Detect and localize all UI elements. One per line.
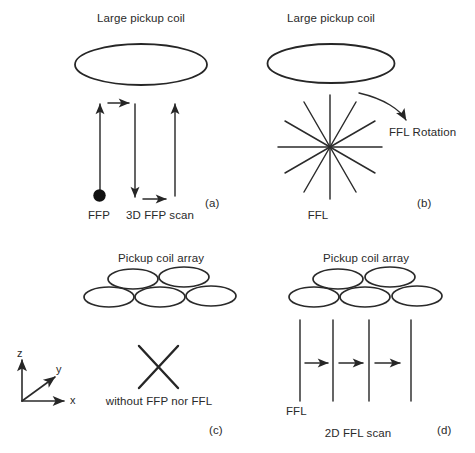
figure-container: Large pickup coil FFP 3D FFP scan (a) La… xyxy=(0,0,475,453)
pickup-coil-array-c-bottom-3 xyxy=(186,286,236,306)
panel-d-label: (d) xyxy=(437,424,451,437)
panel-a-coil-title: Large pickup coil xyxy=(97,12,185,25)
pickup-coil-array-d-bottom-1 xyxy=(289,287,339,307)
no-ffp-nor-ffl-x-mark xyxy=(139,346,178,388)
large-pickup-coil-b xyxy=(268,44,395,83)
panel-c-label: (c) xyxy=(209,424,223,437)
pickup-coil-array-c-top-2 xyxy=(159,267,209,287)
axis-label-x: x xyxy=(70,394,76,406)
panel-b-coil-title: Large pickup coil xyxy=(287,12,375,25)
figure-graphics xyxy=(0,0,475,453)
pickup-coil-array-d-top-2 xyxy=(365,267,415,287)
panel-a-ffp-label: FFP xyxy=(88,209,110,222)
panel-b-rotation-label: FFL Rotation xyxy=(389,126,456,139)
panel-d-coil-title: Pickup coil array xyxy=(323,252,409,265)
axis-label-y: y xyxy=(56,363,62,375)
ffl-rotation-star xyxy=(278,95,382,199)
panel-c-graphics xyxy=(22,267,236,401)
panel-d-ffl-label: FFL xyxy=(286,405,307,418)
axis-label-z: z xyxy=(17,347,23,359)
panel-c-scan-label: without FFP nor FFL xyxy=(106,395,213,408)
pickup-coil-array-d-bottom-3 xyxy=(392,286,442,306)
panel-b-label: (b) xyxy=(417,197,431,210)
panel-d-scan-label: 2D FFL scan xyxy=(325,427,392,440)
ffl-rotation-curved-arrow xyxy=(359,93,406,120)
pickup-coil-array-c-bottom-1 xyxy=(84,287,134,307)
ffp-point-marker xyxy=(93,189,105,201)
panel-a-label: (a) xyxy=(205,197,219,210)
pickup-coil-array-d-bottom-2 xyxy=(340,287,390,307)
panel-d-graphics xyxy=(289,267,442,401)
pickup-coil-array-c-top-1 xyxy=(108,269,158,289)
large-pickup-coil-a xyxy=(75,44,207,85)
y-axis-arrow xyxy=(22,377,55,401)
panel-b-ffl-label: FFL xyxy=(308,209,329,222)
panel-a-scan-label: 3D FFP scan xyxy=(126,209,194,222)
panel-c-coil-title: Pickup coil array xyxy=(118,252,204,265)
panel-a-graphics xyxy=(75,44,207,202)
pickup-coil-array-d-top-1 xyxy=(313,269,363,289)
pickup-coil-array-c-bottom-2 xyxy=(135,287,185,307)
panel-b-graphics xyxy=(268,44,407,199)
